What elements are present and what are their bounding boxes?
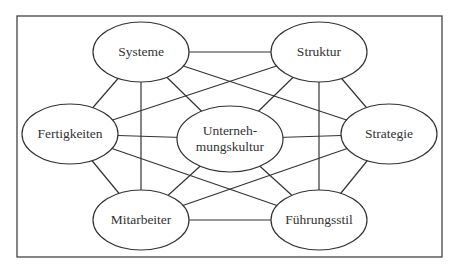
- node-label-line2: mungskultur: [196, 139, 264, 155]
- node-label-struktur: Struktur: [297, 44, 341, 60]
- node-label-mitarbeiter: Mitarbeiter: [111, 212, 172, 228]
- node-label-unternehmungskultur: Unterneh- mungskultur: [196, 123, 264, 155]
- node-label-line1: Unterneh-: [196, 123, 264, 139]
- node-label-fuehrungsstil: Führungsstil: [285, 212, 353, 228]
- node-label-fertigkeiten: Fertigkeiten: [37, 126, 102, 142]
- node-label-systeme: Systeme: [118, 44, 164, 60]
- node-label-strategie: Strategie: [365, 126, 413, 142]
